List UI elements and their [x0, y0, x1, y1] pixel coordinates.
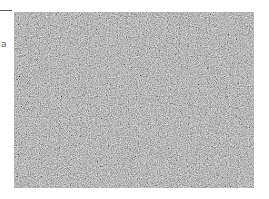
noise-texture: [14, 12, 254, 188]
noise-image: [14, 12, 254, 188]
canvas: a: [0, 0, 269, 199]
cropped-label-fragment: a: [1, 39, 11, 49]
cropped-divider-line: [0, 10, 12, 11]
